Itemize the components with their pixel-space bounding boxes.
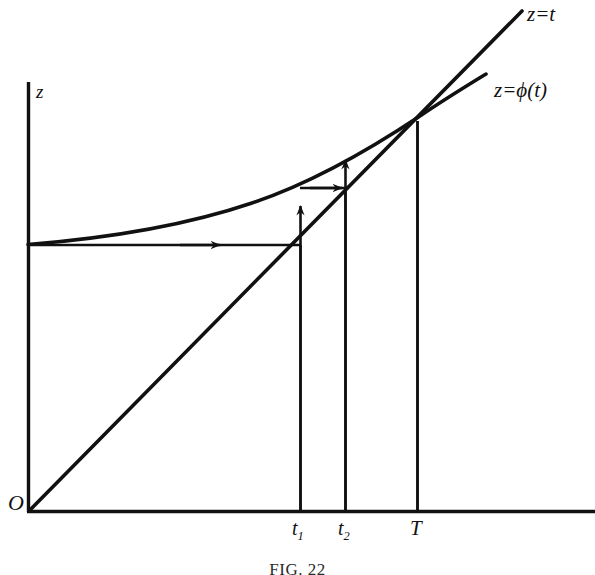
x-tick-label-t2: t2	[338, 518, 350, 542]
identity-line-label: z=t	[527, 4, 555, 25]
x-tick-label-t1-sub: 1	[298, 529, 304, 543]
figure-caption: FIG. 22	[0, 560, 595, 575]
x-tick-label-T: T	[410, 518, 422, 539]
x-tick-label-t2-sub: 2	[344, 529, 350, 543]
x-tick-label-t1: t1	[292, 518, 304, 542]
phi-curve-label: z=ϕ(t)	[494, 80, 547, 101]
identity-line	[29, 11, 522, 511]
z-axis-label: z	[36, 82, 43, 101]
figure-root: z O t1 t2 T z=t z=ϕ(t) FIG. 22	[0, 0, 595, 575]
origin-label: O	[8, 492, 24, 514]
